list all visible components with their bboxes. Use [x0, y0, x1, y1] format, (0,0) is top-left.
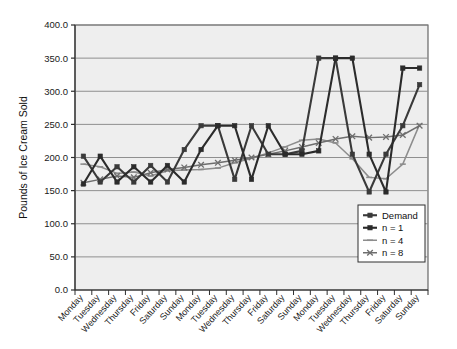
data-point-marker [98, 180, 102, 184]
ice-cream-demand-chart: 0.050.0100.0150.0200.0250.0300.0350.0400… [0, 0, 457, 349]
data-point-marker [350, 152, 354, 156]
data-point-marker [132, 165, 136, 169]
data-point-marker [283, 152, 287, 156]
data-point-marker [249, 124, 253, 128]
data-point-marker [266, 124, 270, 128]
data-point-marker [232, 124, 236, 128]
data-point-marker [368, 226, 372, 230]
data-point-marker [165, 163, 169, 167]
data-point-marker [350, 56, 354, 60]
legend-label: n = 4 [382, 235, 403, 246]
data-point-marker [199, 124, 203, 128]
y-tick-label: 350.0 [44, 53, 68, 64]
y-tick-label: 250.0 [44, 119, 68, 130]
data-point-marker [317, 56, 321, 60]
data-point-marker [417, 82, 421, 86]
y-tick-label: 300.0 [44, 86, 68, 97]
data-point-marker [401, 66, 405, 70]
y-tick-label: 50.0 [50, 251, 69, 262]
data-point-marker [232, 177, 236, 181]
data-point-marker [81, 154, 85, 158]
data-point-marker [333, 56, 337, 60]
data-point-marker [115, 165, 119, 169]
data-point-marker [148, 180, 152, 184]
legend-label: Demand [382, 210, 418, 221]
data-point-marker [317, 149, 321, 153]
data-point-marker [367, 152, 371, 156]
y-axis-title: Pounds of Ice Cream Sold [17, 96, 29, 219]
y-tick-label: 100.0 [44, 218, 68, 229]
y-tick-label: 200.0 [44, 152, 68, 163]
y-axis-title-text: Pounds of Ice Cream Sold [17, 96, 29, 219]
data-point-marker [266, 152, 270, 156]
data-point-marker [417, 66, 421, 70]
chart-canvas: 0.050.0100.0150.0200.0250.0300.0350.0400… [0, 0, 457, 349]
data-point-marker [384, 152, 388, 156]
data-point-marker [367, 190, 371, 194]
y-tick-label: 150.0 [44, 185, 68, 196]
y-tick-label: 400.0 [44, 19, 68, 30]
data-point-marker [148, 163, 152, 167]
data-point-marker [165, 180, 169, 184]
chart-legend: Demandn = 1n = 4n = 8 [358, 205, 425, 262]
data-point-marker [216, 124, 220, 128]
data-point-marker [132, 180, 136, 184]
legend-label: n = 8 [382, 247, 403, 258]
y-tick-label: 0.0 [55, 284, 68, 295]
data-point-marker [401, 124, 405, 128]
data-point-marker [384, 190, 388, 194]
data-point-marker [115, 180, 119, 184]
data-point-marker [81, 182, 85, 186]
data-point-marker [249, 177, 253, 181]
legend-label: n = 1 [382, 222, 403, 233]
data-point-marker [182, 180, 186, 184]
data-point-marker [98, 154, 102, 158]
data-point-marker [199, 147, 203, 151]
data-point-marker [300, 152, 304, 156]
data-point-marker [182, 147, 186, 151]
data-point-marker [368, 213, 372, 217]
